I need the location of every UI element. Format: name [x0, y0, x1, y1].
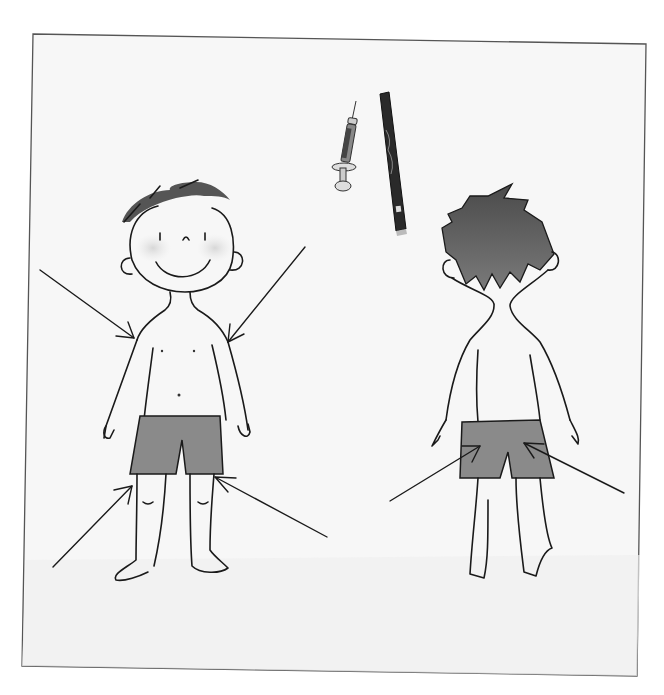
illustration: Pencil drawing of a boy shown from front…: [0, 0, 664, 695]
floor-shadow: [22, 555, 640, 676]
front-shorts: [130, 416, 223, 474]
drawing-canvas: [0, 0, 664, 695]
